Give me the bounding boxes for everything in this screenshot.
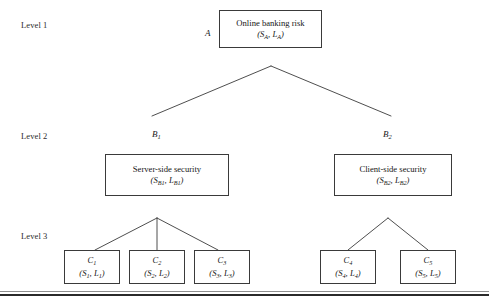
pair-close-c5: ) (438, 268, 441, 278)
pair-s-sub-b2: B2 (384, 179, 391, 186)
pair-open-b2: (S (377, 175, 384, 185)
pair-open-b1: (S (151, 175, 158, 185)
edge-root-to-b1 (152, 66, 271, 116)
edge-b2-to-c5 (388, 218, 428, 250)
node-pair-c4: (S4, L4) (335, 268, 360, 279)
pair-mid-c1: , L (90, 268, 99, 278)
node-box-server-side-security[interactable]: Server-side security (SB1, LB1) (105, 154, 229, 196)
node-pair-c3: (S3, L3) (209, 268, 234, 279)
node-title-b2: Client-side security (359, 164, 426, 175)
level-2-label: Level 2 (21, 131, 47, 141)
node-tag-c2-sub: 2 (158, 259, 161, 266)
edge-b1-to-c1 (95, 218, 157, 250)
node-tag-c4-sub: 4 (349, 259, 352, 266)
pair-l-sub-b1: B1 (174, 179, 181, 186)
pair-close-c3: ) (232, 268, 235, 278)
node-title-c4: C4 (344, 255, 353, 266)
node-title-c5: C5 (424, 255, 433, 266)
pair-close-root: ) (281, 29, 284, 39)
node-pair-root: (SA, LA) (257, 29, 284, 40)
node-tag-c5-sub: 5 (429, 259, 432, 266)
pair-mid-c5: , L (426, 268, 435, 278)
level-3-label: Level 3 (21, 231, 47, 241)
edge-b2-to-c4 (348, 218, 388, 250)
node-tag-c3-sub: 3 (223, 259, 226, 266)
node-pair-c1: (S1, L1) (79, 268, 104, 279)
node-pair-c5: (S5, L5) (415, 268, 440, 279)
node-title-b1: Server-side security (133, 164, 201, 175)
node-box-c2[interactable]: C2 (S2, L2) (129, 250, 185, 284)
node-tag-a-letter: A (205, 28, 211, 38)
node-box-c1[interactable]: C1 (S1, L1) (64, 250, 120, 284)
level-1-label: Level 1 (21, 20, 47, 30)
pair-open-c3: (S (209, 268, 216, 278)
node-box-online-banking-risk[interactable]: Online banking risk (SA, LA) (219, 10, 322, 48)
pair-mid-c4: , L (346, 268, 355, 278)
node-tag-c1-sub: 1 (93, 259, 96, 266)
footer-rule-thin (0, 291, 489, 292)
pair-l-sub-b2: B2 (400, 179, 407, 186)
pair-mid-c3: , L (220, 268, 229, 278)
pair-close-b2: ) (407, 175, 410, 185)
footer-rule-thick (0, 294, 489, 296)
edge-root-to-b2 (271, 66, 391, 116)
node-title-root: Online banking risk (236, 18, 304, 29)
node-box-c5[interactable]: C5 (S5, L5) (400, 250, 456, 284)
node-box-c3[interactable]: C3 (S3, L3) (194, 250, 250, 284)
node-tag-b1: B1 (152, 129, 161, 140)
pair-open-c5: (S (415, 268, 422, 278)
node-box-c4[interactable]: C4 (S4, L4) (320, 250, 376, 284)
node-tag-a: A (205, 28, 211, 38)
node-tag-b2: B2 (383, 129, 392, 140)
pair-close-c4: ) (358, 268, 361, 278)
node-pair-b1: (SB1, LB1) (151, 175, 184, 186)
pair-mid-b1: , L (165, 175, 174, 185)
pair-mid-root: , L (268, 29, 277, 39)
node-box-client-side-security[interactable]: Client-side security (SB2, LB2) (334, 154, 452, 196)
pair-open-c2: (S (144, 268, 151, 278)
pair-close-c1: ) (102, 268, 105, 278)
node-tag-b1-sub: 1 (158, 133, 161, 140)
node-title-c3: C3 (218, 255, 227, 266)
node-title-c2: C2 (153, 255, 162, 266)
pair-close-b1: ) (181, 175, 184, 185)
pair-open-c1: (S (79, 268, 86, 278)
pair-mid-b2: , L (391, 175, 400, 185)
node-pair-b2: (SB2, LB2) (377, 175, 410, 186)
pair-open-c4: (S (335, 268, 342, 278)
pair-close-c2: ) (167, 268, 170, 278)
edge-b1-to-c3 (157, 218, 218, 250)
node-pair-c2: (S2, L2) (144, 268, 169, 279)
risk-hierarchy-diagram: Level 1 Level 2 Level 3 A Online banking… (0, 0, 489, 301)
pair-mid-c2: , L (155, 268, 164, 278)
pair-s-sub-b1: B1 (158, 179, 165, 186)
node-title-c1: C1 (88, 255, 97, 266)
node-tag-b2-sub: 2 (389, 133, 392, 140)
